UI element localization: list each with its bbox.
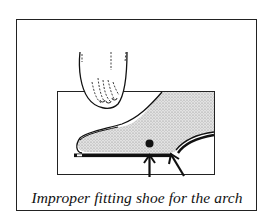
insole-bar	[74, 154, 172, 158]
figure-caption: Improper fitting shoe for the arch	[16, 189, 258, 207]
insole-tip	[77, 154, 82, 156]
arch-pressure-dot	[146, 140, 154, 148]
